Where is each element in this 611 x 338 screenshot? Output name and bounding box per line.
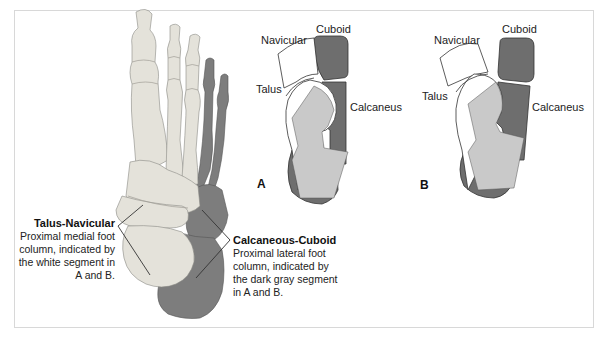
calcaneous-cuboid-line-3: the dark gray segment: [233, 273, 337, 286]
panel-b-letter: B: [420, 178, 429, 192]
panel-a-cuboid-label: Cuboid: [316, 23, 351, 36]
foot-skeleton-illustration: [116, 9, 229, 318]
panel-a-talus-label: Talus: [256, 83, 282, 96]
panel-a-diagram: [278, 36, 348, 204]
talus-navicular-title: Talus-Navicular: [19, 217, 115, 230]
talus-navicular-line-3: the white segment in: [19, 256, 115, 269]
panel-a-letter: A: [257, 177, 266, 191]
panel-b-talus-label: Talus: [422, 90, 448, 103]
talus-navicular-callout: Talus-Navicular Proximal medial foot col…: [19, 217, 115, 282]
calcaneous-cuboid-line-1: Proximal lateral foot: [233, 247, 337, 260]
panel-b-navicular-label: Navicular: [434, 34, 480, 47]
panel-b-cuboid-label: Cuboid: [502, 23, 537, 36]
calcaneous-cuboid-title: Calcaneous-Cuboid: [233, 234, 337, 247]
talus-navicular-line-1: Proximal medial foot: [19, 230, 115, 243]
calcaneous-cuboid-line-2: column, indicated by: [233, 260, 337, 273]
calcaneous-cuboid-callout: Calcaneous-Cuboid Proximal lateral foot …: [233, 234, 337, 299]
calcaneous-cuboid-line-4: in A and B.: [233, 286, 337, 299]
panel-b-diagram: [440, 38, 534, 198]
talus-navicular-line-4: A and B.: [19, 269, 115, 282]
talus-navicular-line-2: column, indicated by: [19, 243, 115, 256]
panel-a-calcaneus-label: Calcaneus: [350, 101, 402, 114]
panel-b-calcaneus-label: Calcaneus: [532, 101, 584, 114]
panel-a-navicular-label: Navicular: [261, 34, 307, 47]
